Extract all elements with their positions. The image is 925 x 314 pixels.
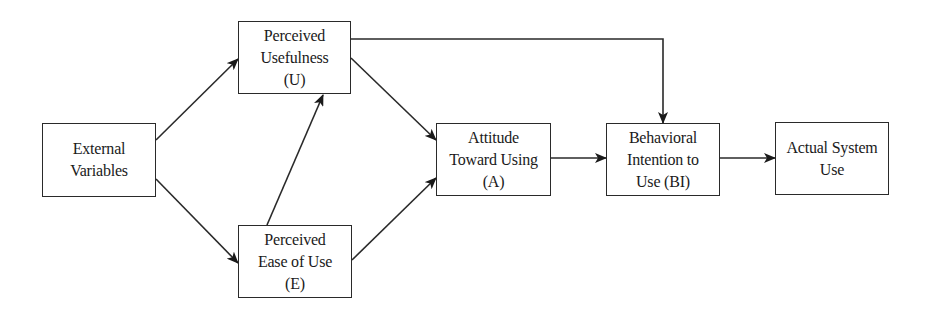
node-label-line: Toward Using bbox=[449, 149, 537, 171]
node-label-line: (A) bbox=[483, 171, 505, 193]
node-label-line: Variables bbox=[70, 160, 128, 182]
node-label-line: Ease of Use bbox=[258, 251, 332, 273]
node-label-line: (U) bbox=[284, 69, 306, 91]
arrow-pu-to-bi bbox=[351, 39, 663, 123]
arrow-ev-to-peou bbox=[156, 179, 238, 263]
node-behavioral-intention: Behavioral Intention to Use (BI) bbox=[606, 123, 720, 196]
arrow-ev-to-pu bbox=[156, 59, 238, 140]
node-label-line: Behavioral bbox=[629, 127, 697, 149]
arrow-peou-to-a bbox=[352, 178, 436, 260]
node-label-line: Perceived bbox=[264, 229, 325, 251]
node-actual-system-use: Actual System Use bbox=[775, 122, 889, 195]
node-attitude-toward-using: Attitude Toward Using (A) bbox=[436, 123, 551, 196]
arrow-peou-to-pu bbox=[267, 95, 323, 225]
node-label-line: Attitude bbox=[468, 127, 519, 149]
node-label-line: Intention to bbox=[627, 149, 699, 171]
node-label-line: Actual System bbox=[786, 137, 877, 159]
node-label-line: External bbox=[73, 138, 126, 160]
arrow-pu-to-a bbox=[351, 58, 436, 140]
node-perceived-usefulness: Perceived Usefulness (U) bbox=[238, 21, 351, 94]
node-label-line: Use bbox=[820, 159, 844, 181]
node-perceived-ease-of-use: Perceived Ease of Use (E) bbox=[238, 225, 352, 298]
node-label-line: Perceived bbox=[264, 25, 325, 47]
node-external-variables: External Variables bbox=[42, 123, 156, 197]
node-label-line: (E) bbox=[285, 273, 305, 295]
node-label-line: Use (BI) bbox=[636, 171, 690, 193]
node-label-line: Usefulness bbox=[260, 47, 328, 69]
